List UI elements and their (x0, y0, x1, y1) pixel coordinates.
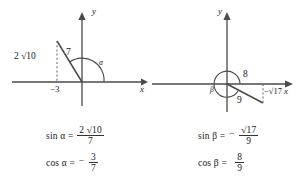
cos-alpha-fraction: 3 7 (89, 152, 98, 174)
formula-sin-beta: sin β = − √17 9 (198, 125, 259, 147)
left-x-intercept-label: −3 (50, 84, 60, 94)
sin-beta-fraction: √17 9 (239, 125, 258, 147)
cos-beta-fraction: 8 9 (235, 152, 244, 174)
right-hypotenuse-label: 9 (237, 95, 242, 105)
right-terminal-ray (227, 84, 263, 103)
left-y-axis-label: y (92, 6, 96, 16)
formula-sin-alpha: sin α = 2 √10 7 (46, 125, 105, 147)
left-x-axis-label: x (140, 84, 144, 94)
formula-cos-alpha: cos α = − 3 7 (46, 152, 99, 174)
cos-beta-numerator: 8 (235, 152, 244, 162)
sin-alpha-lhs: sin α = (46, 131, 74, 141)
right-diagram-graphic (152, 0, 305, 115)
left-y-axis-arrowhead (78, 12, 85, 20)
sin-beta-numerator: √17 (239, 125, 258, 135)
right-y-axis-arrowhead (223, 12, 230, 20)
sin-alpha-numerator: 2 √10 (77, 125, 104, 135)
right-adjacent-label: 8 (243, 69, 248, 79)
right-angle-label: β (210, 85, 214, 94)
formula-cos-beta: cos β = 8 9 (198, 152, 245, 174)
cos-alpha-denominator: 7 (89, 162, 98, 174)
sin-alpha-fraction: 2 √10 7 (77, 125, 104, 147)
left-hypotenuse-label: 7 (66, 47, 71, 57)
cos-alpha-sign: − (78, 156, 86, 166)
cos-alpha-numerator: 3 (89, 152, 98, 162)
right-y-axis-label: y (218, 6, 222, 16)
sin-alpha-denominator: 7 (77, 135, 104, 147)
right-vertical-leg-label: −√17 (264, 86, 282, 96)
cos-beta-denominator: 9 (235, 162, 244, 174)
figure-root: y x 2 √10 7 −3 α y x 8 9 −√17 β sin α = … (0, 0, 305, 183)
left-vertical-leg-label: 2 √10 (14, 51, 36, 61)
left-angle-label: α (99, 58, 103, 67)
sin-beta-denominator: 9 (239, 135, 258, 147)
sin-beta-sign: − (228, 129, 236, 139)
cos-alpha-lhs: cos α = (46, 158, 75, 168)
right-x-axis-label: x (284, 86, 288, 96)
sin-beta-lhs: sin β = (198, 131, 225, 141)
cos-beta-lhs: cos β = (198, 158, 227, 168)
